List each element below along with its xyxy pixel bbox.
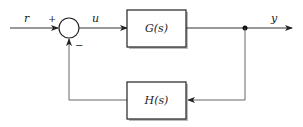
- summing-junction: + −: [48, 13, 83, 51]
- label-y: y: [270, 12, 278, 25]
- summing-junction-circle: [59, 18, 79, 38]
- control-signal-u: u: [79, 12, 127, 28]
- output-signal-y: y: [186, 12, 292, 31]
- feedback-block-label: H(s): [144, 94, 169, 107]
- label-r: r: [24, 12, 30, 25]
- label-u: u: [92, 12, 99, 25]
- block-diagram: r + − u G(s) y H(s): [0, 0, 303, 127]
- minus-sign: −: [75, 40, 83, 51]
- plus-sign: +: [48, 13, 56, 24]
- forward-block-G: G(s): [127, 10, 188, 49]
- forward-block-label: G(s): [145, 22, 168, 35]
- feedback-block-H: H(s): [127, 82, 188, 121]
